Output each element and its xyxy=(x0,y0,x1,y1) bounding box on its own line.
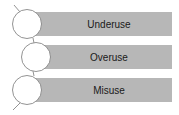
circle-overuse xyxy=(22,43,51,72)
connector-circles xyxy=(0,0,179,115)
connector-line-top xyxy=(14,5,20,12)
connector-line-2 xyxy=(33,71,34,76)
circle-underuse xyxy=(13,10,42,39)
connector-line-bottom xyxy=(13,103,20,110)
circle-misuse xyxy=(13,76,42,105)
connector-line-1 xyxy=(33,38,34,43)
